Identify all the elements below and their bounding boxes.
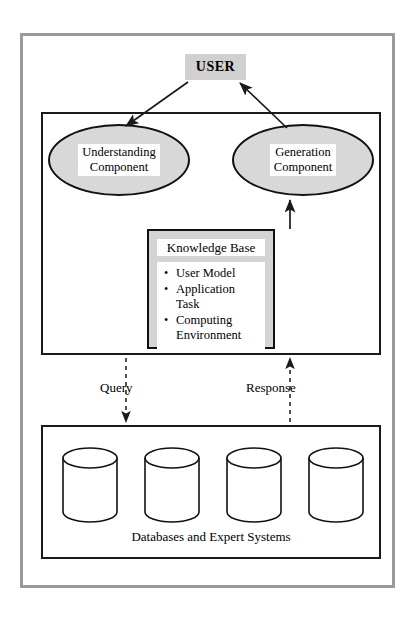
knowledge-base-item-list: User Model Application Task Computing En… <box>157 262 265 349</box>
query-flow-label: Query <box>98 380 135 396</box>
databases-box: Databases and Expert Systems <box>41 425 381 559</box>
generation-component-node: Generation Component <box>232 124 374 196</box>
database-cylinder-icon <box>62 447 118 523</box>
database-cylinder-icon <box>226 447 282 523</box>
user-node: USER <box>185 54 246 80</box>
knowledge-base-node: Knowledge Base User Model Application Ta… <box>147 229 275 349</box>
knowledge-base-item: User Model <box>163 266 261 282</box>
database-cylinder-icon <box>144 447 200 523</box>
diagram-root: USER Understanding Component Generation … <box>0 0 413 622</box>
knowledge-base-item: Computing Environment <box>163 313 261 344</box>
understanding-component-node: Understanding Component <box>48 124 190 196</box>
user-node-label: USER <box>196 59 235 75</box>
generation-component-label: Generation Component <box>270 144 336 176</box>
understanding-component-label: Understanding Component <box>78 144 160 176</box>
response-flow-label: Response <box>244 380 298 396</box>
databases-caption: Databases and Expert Systems <box>43 529 379 545</box>
knowledge-base-item: Application Task <box>163 282 261 313</box>
database-cylinder-icon <box>308 447 364 523</box>
knowledge-base-title: Knowledge Base <box>157 239 265 256</box>
